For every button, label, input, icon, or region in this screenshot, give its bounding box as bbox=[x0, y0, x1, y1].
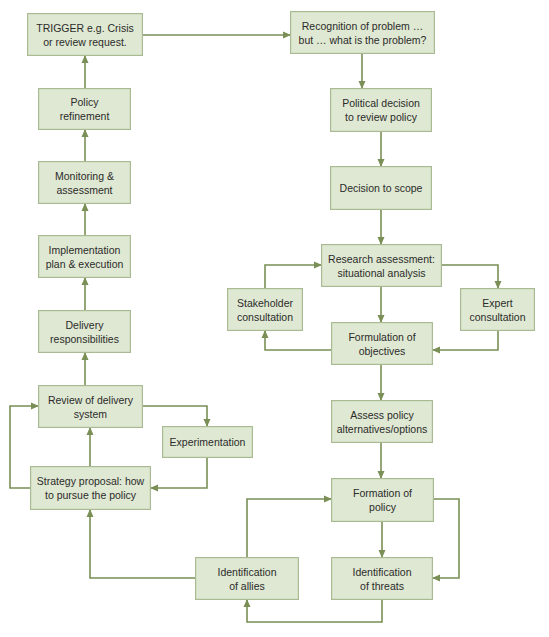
node-label: Formulation of objectives bbox=[348, 330, 415, 358]
node-label: Stakeholder consultation bbox=[237, 296, 293, 324]
arrow-review-delivery-to-experimentation bbox=[143, 406, 207, 426]
node-research: Research assessment: situational analysi… bbox=[321, 244, 442, 287]
node-label: Identification of threats bbox=[353, 565, 412, 593]
arrow-expert-to-objectives bbox=[433, 331, 498, 350]
node-label: Policy refinement bbox=[60, 95, 110, 123]
node-policy-refinement: Policy refinement bbox=[38, 88, 131, 130]
arrow-allies-to-formation bbox=[247, 499, 331, 557]
node-label: Research assessment: situational analysi… bbox=[328, 252, 435, 280]
arrow-threats-to-allies bbox=[247, 600, 382, 622]
node-trigger: TRIGGER e.g. Crisis or review request. bbox=[27, 13, 143, 56]
arrow-objectives-to-stakeholder bbox=[265, 331, 331, 350]
node-scope: Decision to scope bbox=[330, 166, 432, 210]
node-label: Assess policy alternatives/options bbox=[337, 408, 427, 436]
node-recognition: Recognition of problem … but … what is t… bbox=[290, 11, 435, 54]
node-label: Decision to scope bbox=[340, 181, 423, 195]
node-label: TRIGGER e.g. Crisis or review request. bbox=[36, 21, 133, 49]
node-experimentation: Experimentation bbox=[162, 426, 253, 458]
node-delivery: Delivery responsibilities bbox=[38, 310, 131, 353]
arrow-stakeholder-to-research bbox=[265, 265, 321, 288]
arrow-research-to-expert bbox=[442, 265, 498, 288]
node-threats: Identification of threats bbox=[331, 557, 433, 600]
node-label: Identification of allies bbox=[218, 565, 277, 593]
node-label: Review of delivery system bbox=[48, 393, 133, 421]
node-assess: Assess policy alternatives/options bbox=[331, 400, 433, 443]
node-objectives: Formulation of objectives bbox=[331, 322, 433, 365]
node-monitoring: Monitoring & assessment bbox=[38, 161, 131, 204]
node-expert: Expert consultation bbox=[460, 288, 535, 331]
node-strategy: Strategy proposal: how to pursue the pol… bbox=[30, 466, 151, 510]
node-review-delivery: Review of delivery system bbox=[38, 385, 143, 428]
arrow-allies-to-strategy bbox=[90, 510, 195, 578]
arrow-formation-to-threats bbox=[433, 499, 459, 578]
node-stakeholder: Stakeholder consultation bbox=[227, 288, 303, 331]
node-label: Formation of policy bbox=[353, 486, 412, 514]
node-label: Delivery responsibilities bbox=[50, 318, 119, 346]
policy-cycle-diagram: TRIGGER e.g. Crisis or review request.Po… bbox=[0, 0, 549, 637]
node-allies: Identification of allies bbox=[195, 557, 299, 600]
node-implementation: Implementation plan & execution bbox=[38, 235, 131, 278]
node-label: Experimentation bbox=[170, 435, 246, 449]
arrow-experimentation-to-strategy bbox=[151, 458, 207, 488]
node-formation: Formation of policy bbox=[331, 478, 434, 522]
node-label: Expert consultation bbox=[469, 296, 525, 324]
node-label: Implementation plan & execution bbox=[46, 243, 124, 271]
node-political: Political decision to review policy bbox=[330, 88, 432, 132]
node-label: Recognition of problem … but … what is t… bbox=[299, 19, 427, 47]
node-label: Political decision to review policy bbox=[342, 96, 420, 124]
node-label: Strategy proposal: how to pursue the pol… bbox=[37, 474, 144, 502]
node-label: Monitoring & assessment bbox=[55, 169, 114, 197]
